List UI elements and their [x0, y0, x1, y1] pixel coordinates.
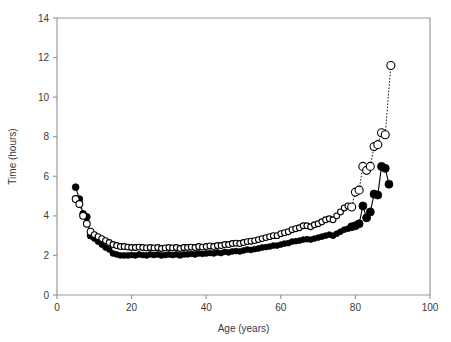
- filled-marker: [72, 184, 79, 191]
- x-tick-label-5: 100: [422, 302, 439, 313]
- chart-svg: 02468101214020406080100Age (years)Time (…: [0, 0, 451, 342]
- open-marker: [348, 203, 356, 211]
- y-tick-label-1: 2: [43, 250, 49, 261]
- x-tick-label-1: 20: [126, 302, 138, 313]
- y-tick-label-2: 4: [43, 210, 49, 221]
- y-axis-title: Time (hours): [7, 128, 18, 184]
- x-tick-label-4: 80: [350, 302, 362, 313]
- filled-marker: [366, 208, 374, 216]
- open-marker: [387, 61, 395, 69]
- x-tick-label-2: 40: [201, 302, 213, 313]
- x-tick-label-0: 0: [54, 302, 60, 313]
- y-tick-label-0: 0: [43, 290, 49, 301]
- open-marker: [374, 141, 382, 149]
- filled-marker: [374, 191, 382, 199]
- open-marker: [83, 220, 90, 227]
- x-tick-label-3: 60: [275, 302, 287, 313]
- y-tick-label-5: 10: [38, 92, 50, 103]
- open-marker: [355, 186, 363, 194]
- y-tick-label-3: 6: [43, 171, 49, 182]
- x-axis-title: Age (years): [218, 323, 270, 334]
- open-marker: [366, 162, 374, 170]
- series-line: [76, 65, 391, 248]
- open-marker: [381, 131, 389, 139]
- open-marker: [76, 201, 83, 208]
- y-tick-label-7: 14: [38, 13, 50, 24]
- filled-marker: [359, 202, 367, 210]
- open-marker: [80, 212, 87, 219]
- filled-marker: [381, 164, 389, 172]
- y-tick-label-4: 8: [43, 131, 49, 142]
- filled-marker: [385, 180, 393, 188]
- series-open-circles: [72, 61, 395, 251]
- filled-marker: [355, 220, 363, 228]
- chart-figure: 02468101214020406080100Age (years)Time (…: [0, 0, 451, 342]
- y-tick-label-6: 12: [38, 52, 50, 63]
